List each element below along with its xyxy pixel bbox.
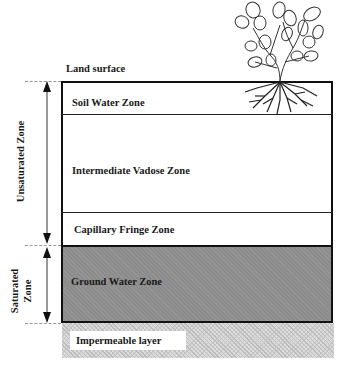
saturated-zone-label: Saturated Zone (8, 261, 36, 321)
saturated-label-line1: Saturated (8, 261, 21, 321)
zone-arrows (38, 78, 58, 328)
arrow-up-icon (43, 81, 51, 92)
land-surface-label: Land surface (66, 63, 125, 74)
arrow-down-icon (43, 233, 51, 244)
intermediate-vadose-zone-label: Intermediate Vadose Zone (72, 165, 190, 176)
unsaturated-zone-label: Unsaturated Zone (14, 112, 27, 212)
groundwater-zone-label: Ground Water Zone (71, 276, 162, 287)
capillary-fringe-zone-label: Capillary Fringe Zone (74, 224, 174, 235)
arrow-down-icon (43, 312, 51, 323)
saturated-label-line2: Zone (21, 261, 34, 321)
impermeable-layer-label: Impermeable layer (76, 335, 161, 346)
arrow-up-icon (43, 247, 51, 258)
intermediate-capillary-divider (61, 212, 333, 213)
soil-water-zone-label: Soil Water Zone (72, 97, 145, 108)
plant-icon (225, 0, 325, 115)
